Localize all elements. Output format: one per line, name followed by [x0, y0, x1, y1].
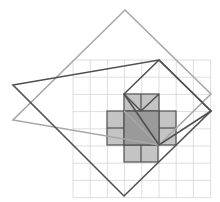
geometry-diagram	[0, 0, 220, 202]
